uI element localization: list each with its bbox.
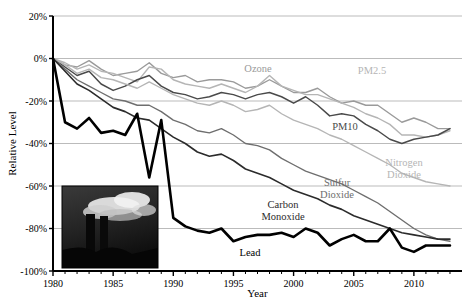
series-label-nitrogen-dioxide-line2: Dioxide [387,169,421,180]
y-axis-ticks: 20%0%-20%-40%-60%-80%-100% [20,11,53,277]
y-axis-title: Relative Level [6,111,18,175]
x-tick-label: 2000 [284,278,304,289]
series-label-sulfur-dioxide-line2: Dioxide [320,189,354,200]
y-tick-label: -20% [25,96,47,107]
y-tick-label: 0% [34,53,47,64]
y-tick-label: -60% [25,181,47,192]
series-label-ozone: Ozone [244,63,272,74]
series-label-nitrogen-dioxide: Nitrogen [385,157,423,168]
x-tick-label: 1980 [43,278,63,289]
x-tick-label: 2010 [404,278,424,289]
series-label-carbon-monoxide: Carbon [268,199,300,210]
series-label-lead: Lead [240,247,262,258]
series-label-carbon-monoxide-line2: Monoxide [261,211,305,222]
x-tick-label: 1985 [103,278,123,289]
chart-canvas: 20%0%-20%-40%-60%-80%-100%19801985199019… [0,0,474,301]
y-tick-label: -100% [20,266,47,277]
x-axis-title: Year [247,287,268,299]
series-label-pm2-5: PM2.5 [358,65,386,76]
y-tick-label: 20% [29,11,47,22]
smokestacks-photo [62,186,158,268]
y-tick-label: -80% [25,223,47,234]
x-tick-label: 1995 [223,278,243,289]
y-tick-label: -40% [25,138,47,149]
x-tick-label: 1990 [163,278,183,289]
series-label-pm10: PM10 [332,121,358,132]
series-label-sulfur-dioxide: Sulfur [324,177,351,188]
pollution-trend-chart: 20%0%-20%-40%-60%-80%-100%19801985199019… [0,0,474,301]
x-tick-label: 2005 [344,278,364,289]
